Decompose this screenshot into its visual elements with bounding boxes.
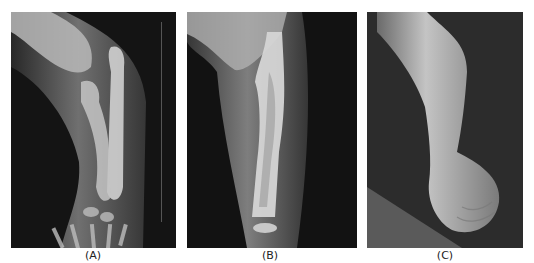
panel-b-label: (B) bbox=[250, 249, 290, 262]
clinical-photo-image bbox=[367, 12, 523, 248]
xray-b-image bbox=[187, 12, 357, 248]
panel-a-xray bbox=[11, 12, 176, 248]
panel-b-xray bbox=[187, 12, 357, 248]
panel-a-label: (A) bbox=[73, 249, 113, 262]
panel-c-photo bbox=[367, 12, 523, 248]
panel-c-label: (C) bbox=[425, 249, 465, 262]
xray-a-image bbox=[11, 12, 176, 248]
